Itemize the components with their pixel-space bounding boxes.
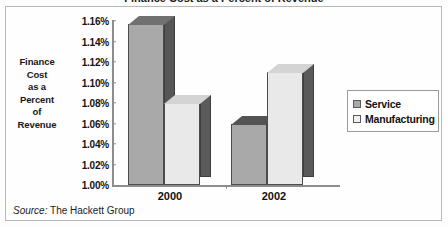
y-axis-title-line: Percent (9, 94, 65, 107)
y-axis-title: Finance Cost as a Percent of Revenue (9, 56, 65, 132)
y-tick-mark (112, 61, 116, 62)
legend-label: Service (365, 98, 401, 110)
legend-item-manufacturing: Manufacturing (353, 111, 434, 126)
source-prefix: Source: (13, 205, 47, 216)
y-tick-mark (112, 82, 116, 83)
y-tick-label: 1.02% (82, 159, 109, 170)
y-tick-label: 1.12% (82, 57, 109, 68)
bar-front-face (231, 124, 267, 185)
legend-swatch-icon (353, 115, 361, 123)
bar-side-face (200, 95, 211, 177)
bar-service-2002 (231, 116, 267, 185)
y-tick-mark (112, 41, 116, 42)
chart-figure: Finance Cost as a Percent of Revenue Fin… (0, 0, 448, 227)
y-axis-title-line: Cost (9, 69, 65, 82)
y-tick-label: 1.10% (82, 77, 109, 88)
y-tick-mark (112, 143, 116, 144)
y-tick-mark (112, 102, 116, 103)
bar-side-face (303, 64, 314, 177)
y-tick-label: 1.00% (82, 180, 109, 191)
legend-item-service: Service (353, 96, 434, 111)
bar-front-face (267, 72, 303, 185)
bar-manufacturing-2000 (164, 95, 200, 185)
y-axis-tick-labels: 1.16% 1.14% 1.12% 1.10% 1.08% 1.06% 1.04… (60, 0, 112, 227)
y-tick-label: 1.04% (82, 139, 109, 150)
x-tick-mark (226, 185, 227, 189)
y-tick-label: 1.06% (82, 118, 109, 129)
y-axis-title-line: Finance (9, 56, 65, 69)
y-tick-mark (112, 164, 116, 165)
legend-label: Manufacturing (365, 113, 435, 125)
y-axis-title-line: of (9, 106, 65, 119)
y-tick-mark (112, 20, 116, 21)
y-tick-label: 1.14% (82, 36, 109, 47)
bar-service-2000 (128, 16, 164, 185)
bar-manufacturing-2002 (267, 64, 303, 185)
legend-swatch-icon (353, 100, 361, 108)
y-axis-title-line: Revenue (9, 119, 65, 132)
bar-front-face (128, 24, 164, 185)
source-note: Source: The Hackett Group (13, 205, 135, 216)
y-axis-title-line: as a (9, 81, 65, 94)
x-category-label-2000: 2000 (130, 190, 210, 202)
source-text: The Hackett Group (50, 205, 134, 216)
x-category-label-2002: 2002 (234, 190, 314, 202)
y-tick-label: 1.16% (82, 16, 109, 27)
bar-front-face (164, 103, 200, 185)
chart-legend: Service Manufacturing (347, 90, 439, 132)
y-tick-mark (112, 123, 116, 124)
y-tick-label: 1.08% (82, 98, 109, 109)
